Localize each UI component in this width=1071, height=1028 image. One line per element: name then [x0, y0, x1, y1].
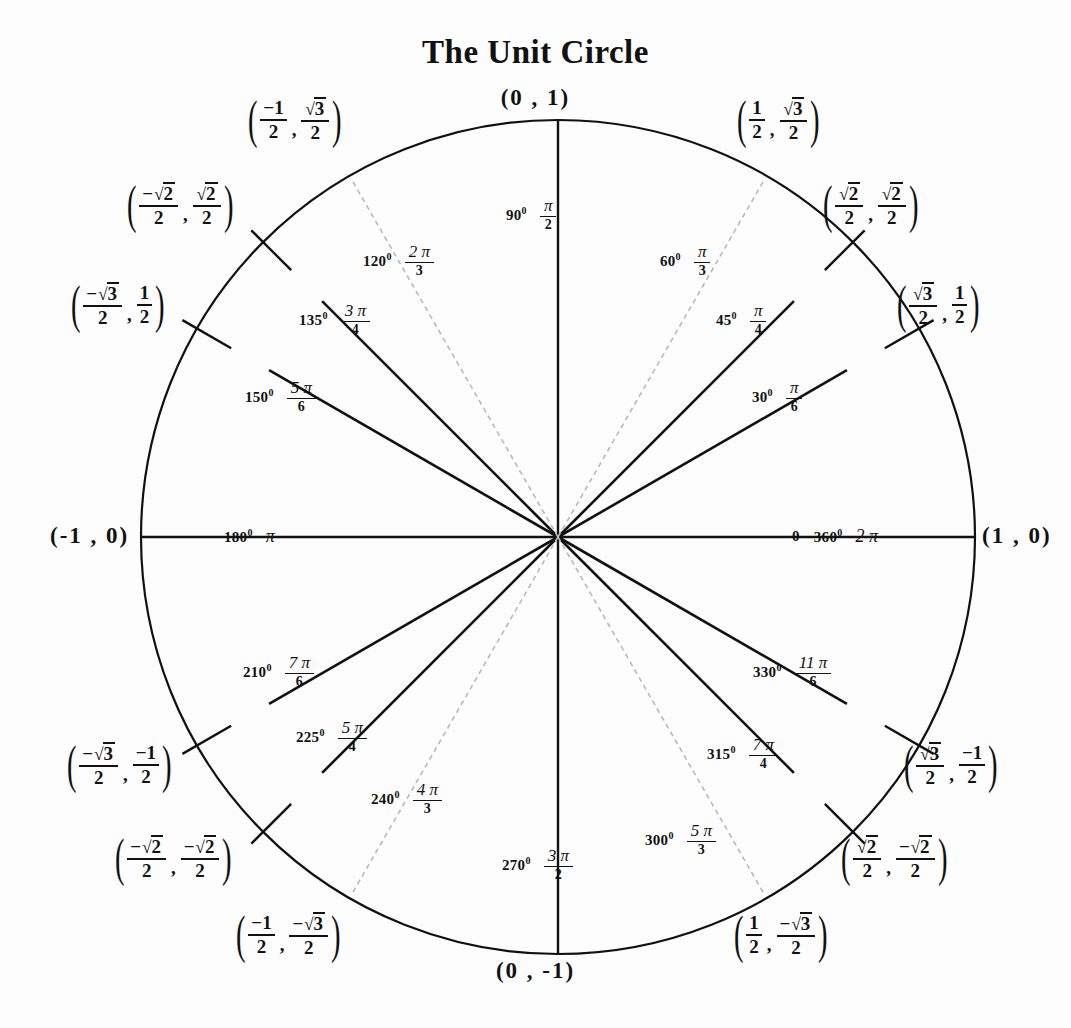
coordinate-separator: , [180, 205, 191, 228]
angle-label-315: 31507 π4 [707, 736, 778, 772]
radical-icon: √3 [97, 282, 119, 304]
right-paren: ) [810, 101, 820, 138]
right-paren: ) [162, 746, 172, 783]
coordinate-separator: , [120, 765, 131, 788]
angle-label-120: 12002 π3 [363, 243, 434, 279]
angle-label-270: 2700 3 π 2 [502, 847, 573, 883]
radical-icon: √2 [196, 182, 218, 204]
angle-label-180: 1800 π [224, 527, 275, 545]
right-paren: ) [223, 186, 233, 223]
radian-value-225: 5 π4 [338, 719, 367, 755]
x-coordinate-fraction: 12 [744, 913, 764, 957]
radian-value-45: π4 [750, 302, 767, 338]
x-coordinate-fraction: −√32 [81, 282, 124, 328]
x-coordinate-fraction: √32 [907, 282, 939, 328]
left-paren: ( [71, 286, 81, 323]
y-coordinate-fraction: 12 [950, 283, 970, 327]
y-coordinate-fraction: −√32 [775, 912, 818, 958]
left-paren: ( [115, 839, 125, 876]
angle-label-240: 24004 π3 [371, 781, 442, 817]
x-coordinate-fraction: √22 [833, 182, 865, 228]
left-paren: ( [841, 839, 851, 876]
coordinate-separator: , [764, 935, 775, 958]
x-coordinate-fraction: √22 [851, 835, 883, 881]
x-coordinate-fraction: −12 [246, 913, 276, 957]
minus-sign: − [130, 836, 141, 857]
y-coordinate-fraction: 12 [135, 283, 155, 327]
degree-value-225: 2250 [296, 728, 325, 745]
axis-point-bottom: (0 , -1) [0, 959, 1071, 982]
right-paren: ) [155, 286, 165, 323]
degree-value-0: 0 [792, 529, 800, 544]
degree-value-150: 1500 [245, 388, 274, 405]
y-coordinate-fraction: −√32 [287, 912, 330, 958]
x-coordinate-fraction: 12 [747, 98, 767, 142]
coordinate-separator: , [168, 858, 179, 881]
right-paren: ) [331, 916, 341, 953]
axis-point-left: (-1 , 0) [50, 524, 129, 547]
radical-icon: √2 [910, 835, 932, 857]
angle-label-135: 13503 π4 [299, 302, 370, 338]
right-paren: ) [970, 286, 980, 323]
degree-value-315: 3150 [707, 745, 736, 762]
coordinate-label-c210: (−√32,−12) [66, 742, 172, 788]
minus-sign: − [136, 742, 147, 763]
y-coordinate-fraction: √32 [778, 97, 810, 143]
coordinate-separator: , [865, 205, 876, 228]
degree-value-180: 1800 [224, 528, 253, 545]
radian-value-300: 5 π3 [687, 822, 716, 858]
radical-icon: √2 [195, 835, 217, 857]
coordinate-separator: , [946, 765, 957, 788]
right-paren: ) [988, 746, 998, 783]
coordinate-label-c225: (−√22,−√22) [114, 835, 233, 881]
y-coordinate-fraction: −12 [957, 743, 987, 787]
tick-mark-150 [182, 320, 231, 348]
radical-icon: √3 [919, 742, 941, 764]
coordinate-label-c330: (√32,−12) [903, 742, 999, 788]
minus-sign: − [82, 743, 93, 764]
coordinate-label-c150: (−√32,12) [70, 282, 166, 328]
radius-line-30 [558, 370, 847, 537]
coordinate-label-c60: (12,√32) [736, 97, 821, 143]
coordinate-separator: , [277, 935, 288, 958]
angle-label-360: 0 3600 2 π [792, 527, 878, 545]
minus-sign: − [142, 183, 153, 204]
radical-icon: √2 [153, 182, 175, 204]
radian-value-120: 2 π3 [405, 243, 434, 279]
radian-value-150: 5 π6 [287, 379, 316, 415]
angle-label-300: 30005 π3 [645, 822, 716, 858]
coordinate-separator: , [289, 120, 300, 143]
y-coordinate-fraction: √22 [191, 182, 223, 228]
left-paren: ( [823, 186, 833, 223]
axis-point-right: (1 , 0) [982, 524, 1052, 547]
radian-value-90: π 2 [540, 197, 557, 233]
x-coordinate-fraction: −√22 [137, 182, 180, 228]
x-coordinate-fraction: −12 [258, 98, 288, 142]
coordinate-separator: , [939, 305, 950, 328]
degree-value-240: 2400 [371, 790, 400, 807]
left-paren: ( [897, 286, 907, 323]
radian-value-135: 3 π4 [341, 302, 370, 338]
coordinate-label-c240: (−12,−√32) [235, 912, 341, 958]
tick-mark-225 [251, 804, 291, 844]
radical-icon: √2 [838, 182, 860, 204]
radian-value-210: 7 π6 [285, 654, 314, 690]
minus-sign: − [899, 836, 910, 857]
radius-line-faint-60 [558, 181, 763, 537]
x-coordinate-fraction: −√22 [125, 835, 168, 881]
radian-value-315: 7 π4 [749, 736, 778, 772]
radical-icon: √3 [304, 97, 326, 119]
y-coordinate-fraction: √22 [876, 182, 908, 228]
left-paren: ( [236, 916, 246, 953]
radian-value-270: 3 π 2 [544, 847, 573, 883]
degree-value-210: 2100 [243, 663, 272, 680]
angle-label-210: 21007 π6 [243, 654, 314, 690]
radical-icon: √3 [303, 912, 325, 934]
coordinate-label-c315: (√22,−√22) [840, 835, 948, 881]
y-coordinate-fraction: −√22 [894, 835, 937, 881]
axis-point-top: (0 , 1) [0, 86, 1071, 109]
angle-label-330: 330011 π6 [753, 654, 831, 690]
tick-mark-45 [825, 230, 865, 270]
degree-value-120: 1200 [363, 252, 392, 269]
minus-sign: − [780, 913, 791, 934]
